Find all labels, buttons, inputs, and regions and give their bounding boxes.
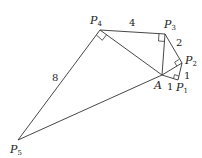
label-p1: P1 <box>175 81 188 95</box>
segment-a-p3 <box>162 34 165 75</box>
edge-label-p2-p3: 2 <box>176 37 182 48</box>
right-angle-mark-p3 <box>159 34 165 42</box>
right-angle-mark-p4 <box>96 35 106 41</box>
edge-label-p4-p5: 8 <box>52 72 58 83</box>
edge-label-p3-p4: 4 <box>129 17 135 28</box>
segment-a-p4 <box>100 30 162 75</box>
label-p2: P2 <box>184 54 197 68</box>
segment-a-p5 <box>18 75 162 140</box>
segment-a-p1 <box>162 75 178 80</box>
segment-a-p2 <box>162 63 182 75</box>
label-p4: P4 <box>89 14 102 28</box>
label-p5: P5 <box>9 143 22 157</box>
segment-p4-p5 <box>18 30 100 140</box>
edge-label-a-p1: 1 <box>167 81 173 92</box>
segment-p3-p4 <box>100 30 165 34</box>
edge-label-p1-p2: 1 <box>184 70 190 81</box>
spiral-triangle-diagram: A P1 P2 P3 P4 P5 1 1 2 4 8 <box>0 0 202 158</box>
label-p3: P3 <box>163 18 176 32</box>
label-a: A <box>153 79 162 92</box>
